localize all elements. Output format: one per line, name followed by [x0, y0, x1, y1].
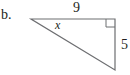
side-label-top: 9: [73, 1, 80, 15]
angle-label: x: [55, 19, 60, 31]
right-angle-marker: [106, 19, 115, 27]
right-triangle-diagram: [0, 0, 130, 75]
side-label-right: 5: [121, 38, 128, 52]
triangle-shape: [31, 19, 115, 70]
